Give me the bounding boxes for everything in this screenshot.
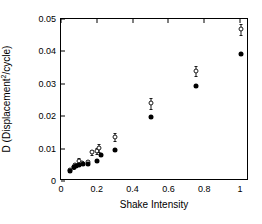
x-axis-tick-mark <box>61 19 62 23</box>
plot-area: 00.010.020.030.040.0500.20.40.60.81 <box>60 18 248 180</box>
error-bar-cap <box>91 155 94 156</box>
y-axis-tick-mark <box>61 83 65 84</box>
y-axis-tick-label: 0.05 <box>38 14 61 24</box>
data-point <box>85 161 90 166</box>
data-point <box>149 114 154 119</box>
y-axis-tick-mark <box>61 51 65 52</box>
error-bar-cap <box>113 141 116 142</box>
data-point <box>99 153 104 158</box>
data-point <box>97 146 102 151</box>
y-axis-tick-mark <box>61 116 65 117</box>
data-point <box>112 134 117 139</box>
x-axis-tick-label: 1 <box>238 179 243 194</box>
x-axis-tick-label: 0.8 <box>198 179 211 194</box>
y-axis-tick-mark <box>61 148 65 149</box>
y-axis-label-tail: /cycle) <box>1 46 12 75</box>
error-bar-cap <box>195 76 198 77</box>
data-point <box>94 159 99 164</box>
error-bar-cap <box>195 66 198 67</box>
data-point <box>149 101 154 106</box>
x-axis-tick-mark <box>96 19 97 23</box>
x-axis-tick-label: 0 <box>58 179 63 194</box>
data-point <box>194 84 199 89</box>
scatter-chart: 00.010.020.030.040.0500.20.40.60.81 Shak… <box>0 0 262 224</box>
data-point <box>112 147 117 152</box>
x-axis-tick-mark <box>168 19 169 23</box>
y-axis-tick-label: 0.02 <box>38 111 61 121</box>
y-axis-tick-label: 0.01 <box>38 144 61 154</box>
data-point <box>238 51 243 56</box>
x-axis-tick-label: 0.4 <box>126 179 139 194</box>
y-axis-tick-mark <box>61 19 65 20</box>
data-point <box>194 68 199 73</box>
error-bar-cap <box>150 98 153 99</box>
y-axis-tick-label: 0.03 <box>38 79 61 89</box>
y-axis-label-exponent: 2 <box>0 75 7 79</box>
error-bar-cap <box>239 35 242 36</box>
data-point <box>238 27 243 32</box>
x-axis-label: Shake Intensity <box>60 199 248 210</box>
error-bar-cap <box>150 109 153 110</box>
x-axis-tick-label: 0.6 <box>162 179 175 194</box>
y-axis-tick-label: 0.04 <box>38 46 61 56</box>
error-bar-cap <box>239 24 242 25</box>
x-axis-tick-mark <box>240 19 241 23</box>
x-axis-tick-mark <box>204 19 205 23</box>
x-axis-tick-label: 0.2 <box>91 179 104 194</box>
x-axis-tick-mark <box>132 19 133 23</box>
y-axis-label: D (Displacement2/cycle) <box>0 18 14 180</box>
y-axis-label-base: D (Displacement <box>1 78 12 152</box>
